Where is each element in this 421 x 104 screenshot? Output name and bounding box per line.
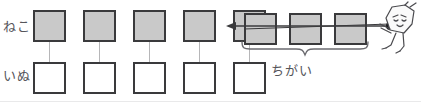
bottom-row-cell xyxy=(83,62,116,94)
pull-arrow-icon xyxy=(226,18,396,34)
bottom-divider xyxy=(0,101,421,102)
top-row-cell xyxy=(83,10,116,42)
bottom-row-cell xyxy=(33,62,66,94)
row-label-neko: ねこ xyxy=(3,16,30,35)
bottom-row-cell xyxy=(183,62,216,94)
pulling-character-icon xyxy=(374,2,420,58)
pair-connector xyxy=(99,42,100,62)
top-row-cell xyxy=(133,10,166,42)
row-label-inu: いぬ xyxy=(3,65,30,84)
top-row-cell xyxy=(33,10,66,42)
diagram-canvas: ねこ いぬ ちがい xyxy=(0,0,421,104)
bottom-row-cell xyxy=(133,62,166,94)
difference-brace-icon xyxy=(240,41,372,57)
pair-connector xyxy=(199,42,200,62)
bottom-row-cell xyxy=(233,62,266,94)
top-row-cell xyxy=(183,10,216,42)
pair-connector xyxy=(49,42,50,62)
pair-connector xyxy=(149,42,150,62)
difference-label: ちがい xyxy=(271,60,313,79)
